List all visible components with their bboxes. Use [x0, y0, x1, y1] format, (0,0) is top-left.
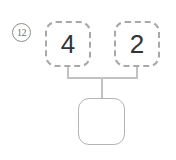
part-box-left[interactable]: 4 [45, 21, 91, 67]
number-bond-worksheet: 12 4 2 [0, 0, 176, 160]
part-value-left: 4 [61, 31, 75, 57]
part-value-right: 2 [130, 31, 144, 57]
whole-answer-box[interactable] [78, 98, 125, 145]
connector-stub-center [101, 77, 103, 99]
part-box-right[interactable]: 2 [114, 21, 160, 67]
problem-number-label: 12 [17, 28, 26, 38]
connector-horizontal-bar [67, 77, 138, 79]
problem-number-badge: 12 [12, 23, 31, 42]
